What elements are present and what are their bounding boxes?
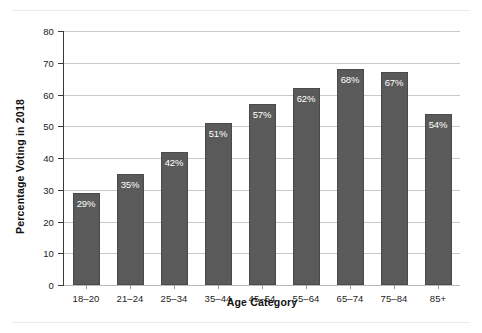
y-tick-label: 60 (12, 89, 54, 100)
y-tick-label: 20 (12, 216, 54, 227)
bar-value-label: 51% (206, 128, 231, 139)
x-tick-mark (262, 285, 263, 289)
top-divider-rule (12, 10, 470, 11)
y-tick-label: 40 (12, 153, 54, 164)
bar-value-label: 62% (294, 93, 319, 104)
x-tick-mark (394, 285, 395, 289)
x-tick-mark (174, 285, 175, 289)
bar-value-label: 29% (74, 198, 99, 209)
chart-figure: Percentage Voting in 2018 01020304050607… (0, 0, 482, 333)
bar[interactable]: 35% (117, 174, 144, 285)
y-tick-label: 80 (12, 26, 54, 37)
gridline (64, 63, 460, 64)
x-tick-mark (438, 285, 439, 289)
bar[interactable]: 57% (249, 104, 276, 285)
bar[interactable]: 42% (161, 152, 188, 285)
x-tick-mark (130, 285, 131, 289)
y-tick-label: 70 (12, 57, 54, 68)
plot-area: 29%35%42%51%57%62%68%67%54% 18–2021–2425… (64, 31, 460, 285)
bar[interactable]: 29% (73, 193, 100, 285)
bar[interactable]: 68% (337, 69, 364, 285)
x-tick-mark (218, 285, 219, 289)
y-tick-label: 0 (12, 280, 54, 291)
bar-value-label: 57% (250, 109, 275, 120)
x-axis-title: Age Category (64, 296, 460, 308)
bar[interactable]: 67% (381, 72, 408, 285)
bottom-divider-rule (12, 322, 470, 323)
bar-value-label: 54% (426, 119, 451, 130)
y-tick-label: 10 (12, 248, 54, 259)
bar[interactable]: 62% (293, 88, 320, 285)
bar-value-label: 67% (382, 77, 407, 88)
y-tick-label: 30 (12, 184, 54, 195)
bar[interactable]: 51% (205, 123, 232, 285)
y-tick-label: 50 (12, 121, 54, 132)
x-tick-mark (306, 285, 307, 289)
bar-value-label: 35% (118, 179, 143, 190)
x-tick-mark (86, 285, 87, 289)
bar-value-label: 68% (338, 74, 363, 85)
gridline (64, 31, 460, 32)
bar-value-label: 42% (162, 157, 187, 168)
bar[interactable]: 54% (425, 114, 452, 285)
x-tick-mark (350, 285, 351, 289)
